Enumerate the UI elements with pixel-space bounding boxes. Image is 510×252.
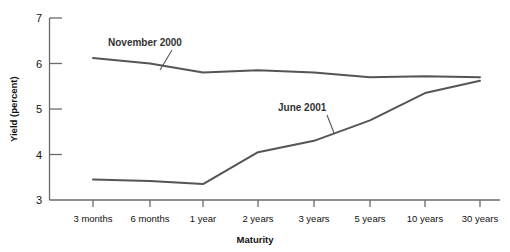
annotation-june-2001: June 2001	[278, 102, 334, 133]
series-line-november-2000	[93, 58, 480, 77]
yield-curve-chart: 7 6 5 4 3 Yield (percent) 3 months6 mont…	[0, 0, 510, 252]
annotation-label-november-2000: November 2000	[108, 37, 182, 48]
x-axis-ticks	[93, 200, 480, 207]
y-axis-tick-labels: 7 6 5 4 3	[36, 12, 42, 206]
x-tick-label-7: 30 years	[462, 213, 499, 224]
annotation-november-2000: November 2000	[108, 37, 182, 70]
y-axis-ticks	[50, 18, 63, 155]
x-tick-label-4: 3 years	[298, 213, 329, 224]
y-tick-label-3: 3	[36, 194, 42, 206]
y-tick-label-6: 6	[36, 58, 42, 70]
chart-svg: 7 6 5 4 3 Yield (percent) 3 months6 mont…	[0, 0, 510, 252]
x-tick-label-1: 6 months	[130, 213, 169, 224]
y-tick-label-5: 5	[36, 103, 42, 115]
y-tick-label-4: 4	[36, 149, 42, 161]
x-tick-label-6: 10 years	[407, 213, 444, 224]
x-tick-label-5: 5 years	[354, 213, 385, 224]
annotation-leader-june-2001	[327, 115, 334, 133]
series-line-june-2001	[93, 81, 480, 184]
x-tick-label-0: 3 months	[73, 213, 112, 224]
x-axis-title: Maturity	[237, 234, 275, 245]
x-tick-label-2: 1 year	[190, 213, 216, 224]
annotation-label-june-2001: June 2001	[278, 102, 327, 113]
y-tick-label-7: 7	[36, 12, 42, 24]
y-axis-title: Yield (percent)	[8, 76, 19, 142]
x-tick-label-3: 2 years	[242, 213, 273, 224]
x-axis-tick-labels: 3 months6 months1 year2 years3 years5 ye…	[73, 213, 498, 224]
